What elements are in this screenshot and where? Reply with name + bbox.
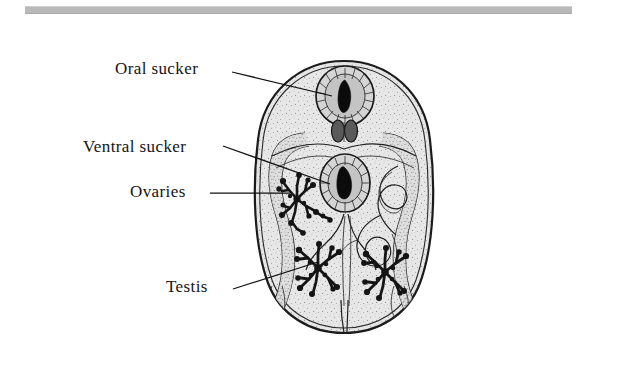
fluke-anatomy-illustration bbox=[0, 0, 636, 371]
oral-sucker bbox=[316, 66, 374, 126]
page-canvas: Oral sucker Ventral sucker Ovaries Testi… bbox=[0, 0, 636, 371]
